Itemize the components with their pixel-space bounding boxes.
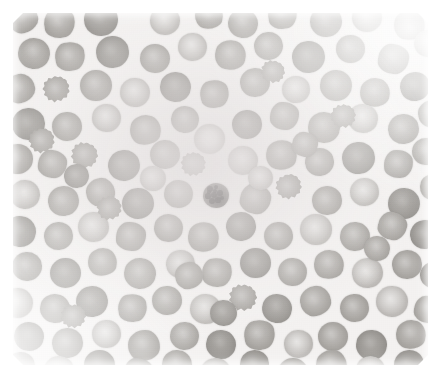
erythrocyte (283, 329, 315, 360)
erythrocyte (50, 258, 81, 288)
erythrocyte (116, 221, 147, 251)
erythrocyte (340, 140, 377, 176)
erythrocyte (290, 39, 326, 74)
erythrocyte (128, 330, 161, 362)
erythrocyte (231, 109, 263, 140)
erythrocyte (180, 152, 206, 177)
erythrocyte (13, 144, 33, 175)
erythrocyte (105, 147, 143, 184)
erythrocyte (80, 70, 113, 102)
paper-margin-top (0, 0, 440, 13)
paper-margin-bottom (0, 365, 440, 378)
erythrocyte (315, 349, 348, 365)
erythrocyte (319, 69, 353, 102)
erythrocyte (13, 251, 43, 283)
erythrocyte (185, 219, 222, 256)
erythrocyte (391, 347, 427, 365)
erythrocyte (200, 256, 233, 288)
erythrocyte (151, 285, 182, 316)
erythrocyte (349, 177, 379, 206)
erythrocyte (352, 13, 383, 33)
erythrocyte (13, 13, 41, 36)
erythrocyte (270, 102, 300, 131)
erythrocyte (13, 212, 39, 250)
erythrocyte (310, 184, 344, 217)
nuclear-granule (207, 190, 211, 194)
blood-smear-micrograph: Peripheral blood smear micrograph (0, 0, 440, 378)
erythrocyte (197, 77, 232, 111)
erythrocyte (13, 71, 38, 106)
erythrocyte (51, 111, 82, 142)
erythrocyte (83, 13, 119, 37)
erythrocyte (149, 13, 180, 36)
erythrocyte (40, 74, 71, 104)
erythrocyte (397, 69, 428, 105)
erythrocyte (339, 293, 370, 323)
erythrocyte (91, 319, 122, 349)
erythrocyte (240, 248, 272, 279)
erythrocyte (336, 35, 365, 63)
erythrocyte (309, 13, 343, 38)
nuclear-granule (217, 190, 223, 196)
erythrocyte (13, 177, 42, 211)
leukocyte-cell (203, 183, 229, 208)
erythrocyte (84, 350, 116, 365)
erythrocyte (116, 292, 149, 324)
erythrocyte (13, 287, 34, 319)
erythrocyte (87, 247, 119, 278)
erythrocyte (53, 39, 88, 73)
erythrocyte (209, 299, 238, 327)
erythrocyte (393, 317, 428, 352)
erythrocyte (193, 13, 225, 31)
erythrocyte (168, 320, 200, 351)
nuclear-granule (209, 198, 215, 204)
erythrocyte (377, 42, 411, 75)
erythrocyte (119, 77, 151, 109)
erythrocyte (390, 248, 424, 281)
erythrocyte (160, 347, 195, 365)
erythrocyte (152, 212, 185, 244)
erythrocyte (15, 35, 54, 73)
erythrocyte (282, 76, 311, 104)
erythrocyte (42, 220, 75, 253)
erythrocyte (277, 257, 308, 287)
erythrocyte (212, 37, 249, 73)
erythrocyte (318, 322, 348, 351)
erythrocyte (163, 179, 194, 209)
erythrocyte (418, 172, 428, 202)
specimen-field (13, 13, 428, 365)
erythrocyte (13, 349, 38, 365)
erythrocyte (140, 166, 167, 192)
erythrocyte (157, 69, 193, 104)
paper-margin-left (0, 0, 13, 378)
erythrocyte (272, 171, 305, 203)
erythrocyte (263, 221, 294, 251)
erythrocyte (238, 348, 271, 365)
erythrocyte (140, 44, 171, 74)
erythrocyte (176, 31, 208, 62)
erythrocyte (45, 183, 82, 220)
erythrocyte (312, 247, 347, 281)
erythrocyte (266, 13, 299, 31)
erythrocyte (121, 255, 159, 292)
nuclear-granule (220, 196, 224, 200)
erythrocyte (251, 29, 285, 62)
nuclear-granule (213, 189, 217, 193)
erythrocyte (203, 327, 239, 362)
erythrocyte (13, 319, 47, 354)
erythrocyte (375, 285, 408, 317)
erythrocyte (278, 357, 309, 365)
erythrocyte (300, 214, 333, 246)
erythrocyte (407, 217, 428, 252)
erythrocyte (224, 209, 259, 243)
paper-margin-right (428, 0, 440, 378)
erythrocyte (121, 187, 154, 219)
erythrocyte (384, 150, 413, 179)
erythrocyte (411, 137, 428, 166)
erythrocyte (42, 13, 77, 40)
erythrocyte (417, 99, 428, 128)
erythrocyte (298, 284, 334, 319)
erythrocyte (95, 35, 131, 70)
erythrocyte (91, 103, 121, 132)
